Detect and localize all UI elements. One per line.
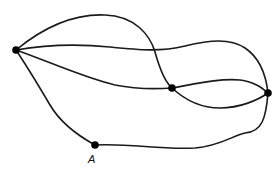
edge-l-r-middle-wave <box>16 41 268 93</box>
edge-m-r-upper <box>172 80 268 93</box>
nodes-group <box>12 46 272 149</box>
node-r <box>264 89 272 97</box>
edge-l-m-upper-arc <box>16 15 172 88</box>
graph-diagram: A <box>0 0 280 172</box>
node-a <box>91 141 99 149</box>
node-m <box>168 84 176 92</box>
edge-m-r-lower <box>172 88 268 108</box>
edges-group <box>16 15 268 148</box>
edge-l-m-lower-curve <box>16 50 172 89</box>
node-l <box>12 46 20 54</box>
node-label-a: A <box>87 153 95 165</box>
edge-a-r-bottom-curve <box>95 93 268 148</box>
